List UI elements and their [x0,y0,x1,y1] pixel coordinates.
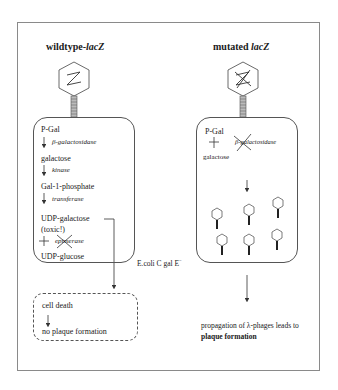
metabolite-pgal: P-Gal [41,126,60,134]
enzyme-beta-galactosidase: β-galactosidase [52,139,96,146]
outcome-no-plaque: no plaque formation [42,328,107,336]
mutated-phage-icon [228,62,258,117]
outcome-propagation: propagation of λ-phages leads to [201,322,299,330]
enzyme-beta-galactosidase-blocked: β-galactosidase [235,139,276,146]
metabolite-pgal-right: P-Gal [205,128,224,136]
metabolite-gal-1-phosphate: Gal-1-phosphate [41,183,94,191]
enzyme-transferase: transferase [52,196,84,203]
toxic-note: (toxic!) [41,226,65,234]
outcome-plaque-formation: plaque formation [201,333,257,341]
enzyme-epimerase: epimerase [55,238,84,245]
outcome-cell-death: cell death [42,302,73,310]
wildtype-phage-icon [59,62,89,117]
host-label-text: E.coli C gal E [137,259,179,268]
host-strain-label: E.coli C gal E− [137,258,182,267]
metabolite-galactose-right: galactose [203,154,229,161]
enzyme-kinase: kinase [52,167,70,174]
metabolite-udp-glucose: UDP-glucose [41,253,84,261]
host-superscript: − [179,258,182,263]
metabolite-galactose: galactose [41,155,71,163]
metabolite-udp-galactose: UDP-galactose [41,215,89,223]
